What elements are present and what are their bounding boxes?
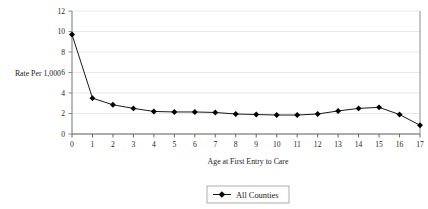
y-axis-title: Rate Per 1,000 (15, 69, 61, 78)
x-tick-label: 5 (172, 140, 176, 149)
legend-entry-label: All Counties (236, 191, 279, 200)
x-tick-label: 9 (254, 140, 258, 149)
x-tick-label: 12 (314, 140, 322, 149)
x-tick-label: 2 (111, 140, 115, 149)
x-tick-label: 6 (193, 140, 197, 149)
x-tick-label: 1 (91, 140, 95, 149)
x-tick-label: 3 (132, 140, 136, 149)
x-tick-label: 4 (152, 140, 156, 149)
x-tick-label: 7 (213, 140, 217, 149)
chart-legend[interactable]: All Counties (207, 186, 289, 203)
y-tick-label: 12 (57, 7, 65, 16)
y-tick-label: 6 (61, 68, 65, 77)
y-tick-label: 8 (61, 48, 65, 57)
x-axis-title: Age at First Entry to Care (208, 157, 289, 166)
x-tick-label: 11 (294, 140, 302, 149)
x-tick-label: 14 (355, 140, 363, 149)
x-axis-tick-labels: 0 1 2 3 4 5 6 7 8 9 10 11 12 13 14 15 16… (70, 140, 424, 149)
y-tick-label: 2 (61, 109, 65, 118)
x-tick-label: 16 (396, 140, 404, 149)
x-tick-label: 17 (416, 140, 424, 149)
x-tick-label: 13 (334, 140, 342, 149)
y-tick-label: 0 (61, 130, 65, 139)
chart-container: 12 10 8 6 4 2 0 Rate Per 1,000 (0, 0, 428, 209)
x-tick-label: 0 (70, 140, 74, 149)
y-tick-label: 4 (61, 89, 65, 98)
line-chart: 12 10 8 6 4 2 0 Rate Per 1,000 (0, 0, 428, 209)
x-tick-label: 10 (273, 140, 281, 149)
y-tick-label: 10 (57, 27, 65, 36)
x-tick-label: 15 (375, 140, 383, 149)
x-tick-label: 8 (234, 140, 238, 149)
